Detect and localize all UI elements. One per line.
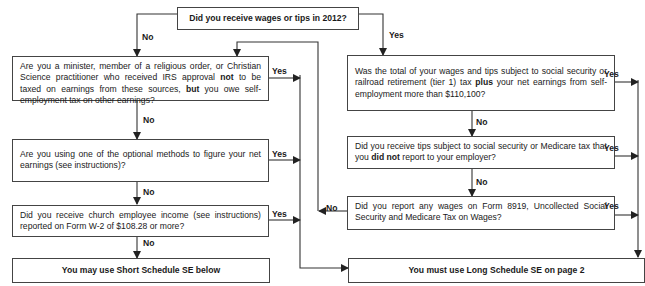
question-text: Did you report any wages on Form 8919, U… <box>355 201 607 222</box>
outcome-long-schedule-box: You must use Long Schedule SE on page 2 <box>348 258 645 283</box>
emphasis-text: plus <box>475 77 493 87</box>
question-church-income-box: Did you receive church employee income (… <box>12 205 269 237</box>
yes-label: Yes <box>604 201 619 211</box>
emphasis-text: did not <box>371 152 400 162</box>
question-form-8919-box: Did you report any wages on Form 8919, U… <box>347 196 615 230</box>
start-question-text: Did you receive wages or tips in 2012? <box>189 13 347 24</box>
yes-label: Yes <box>272 149 287 159</box>
question-unreported-tips-box: Did you receive tips subject to social s… <box>347 136 615 169</box>
question-wage-total-box: Was the total of your wages and tips sub… <box>347 55 615 111</box>
yes-label: Yes <box>604 69 619 79</box>
yes-label: Yes <box>272 209 287 219</box>
yes-label: Yes <box>604 143 619 153</box>
no-label: No <box>142 32 153 42</box>
no-label: No <box>326 203 337 213</box>
question-optional-methods-box: Are you using one of the optional method… <box>12 139 269 182</box>
question-text: Are you using one of the optional method… <box>20 149 261 170</box>
yes-label: Yes <box>389 30 404 40</box>
no-label: No <box>143 187 154 197</box>
emphasis-text: not <box>220 72 233 82</box>
no-label: No <box>143 115 154 125</box>
question-text: Did you receive church employee income (… <box>20 210 261 231</box>
outcome-short-schedule-box: You may use Short Schedule SE below <box>12 258 270 283</box>
outcome-long-text: You must use Long Schedule SE on page 2 <box>408 265 584 276</box>
question-text: report to your employer? <box>400 152 496 162</box>
outcome-short-text: You may use Short Schedule SE below <box>62 265 220 276</box>
start-question-box: Did you receive wages or tips in 2012? <box>177 7 359 30</box>
yes-label: Yes <box>272 66 287 76</box>
emphasis-text: but <box>186 84 199 94</box>
no-label: No <box>476 177 487 187</box>
no-label: No <box>143 238 154 248</box>
question-minister-box: Are you a minister, member of a religiou… <box>12 56 269 101</box>
no-label: No <box>476 117 487 127</box>
